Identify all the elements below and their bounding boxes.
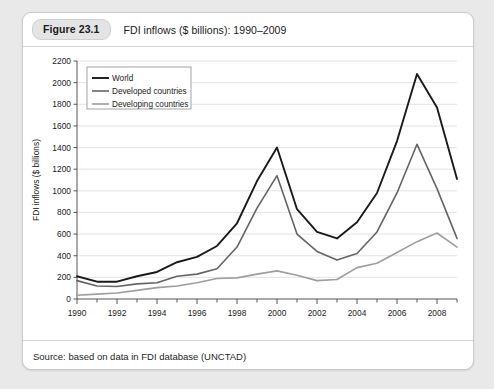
y-tick-label: 0 — [66, 294, 71, 304]
x-tick-label: 2006 — [388, 308, 407, 318]
figure-title: FDI inflows ($ billions): 1990–2009 — [124, 24, 287, 36]
y-tick-label: 400 — [57, 251, 71, 261]
x-tick-label: 1998 — [228, 308, 247, 318]
x-tick-label: 2000 — [268, 308, 287, 318]
figure-number-badge: Figure 23.1 — [32, 19, 111, 40]
fdi-inflows-line-chart: 0200400600800100012001400160018002000220… — [23, 47, 475, 342]
y-tick-label: 1000 — [52, 186, 71, 196]
y-axis-ticks: 0200400600800100012001400160018002000220… — [52, 56, 77, 304]
figure-source-note: Source: based on data in FDI database (U… — [33, 351, 246, 362]
figure-card: Figure 23.1 FDI inflows ($ billions): 19… — [22, 12, 474, 370]
x-tick-label: 2002 — [308, 308, 327, 318]
x-tick-label: 1990 — [68, 308, 87, 318]
x-tick-label: 2004 — [348, 308, 367, 318]
y-tick-label: 1600 — [52, 121, 71, 131]
y-tick-label: 2200 — [52, 56, 71, 66]
y-tick-label: 600 — [57, 229, 71, 239]
y-axis-title: FDI inflows ($ billions) — [31, 139, 41, 221]
y-tick-label: 800 — [57, 207, 71, 217]
y-tick-label: 1200 — [52, 164, 71, 174]
x-axis-ticks: 1990199219941996199820002002200420062008 — [68, 299, 457, 318]
x-tick-label: 1992 — [108, 308, 127, 318]
y-tick-label: 1400 — [52, 143, 71, 153]
series-line-developing-countries — [77, 233, 457, 295]
y-tick-label: 1800 — [52, 99, 71, 109]
chart-legend: WorldDeveloped countriesDeveloping count… — [87, 67, 191, 109]
x-tick-label: 2008 — [428, 308, 447, 318]
chart-plot-area: 0200400600800100012001400160018002000220… — [23, 47, 475, 342]
y-tick-label: 2000 — [52, 78, 71, 88]
x-tick-label: 1994 — [148, 308, 167, 318]
x-tick-label: 1996 — [188, 308, 207, 318]
legend-label: Developing countries — [112, 100, 188, 109]
legend-label: Developed countries — [112, 87, 187, 96]
footer-divider — [23, 340, 473, 341]
figure-header: Figure 23.1 FDI inflows ($ billions): 19… — [23, 13, 473, 46]
y-tick-label: 200 — [57, 272, 71, 282]
legend-label: World — [112, 74, 134, 83]
